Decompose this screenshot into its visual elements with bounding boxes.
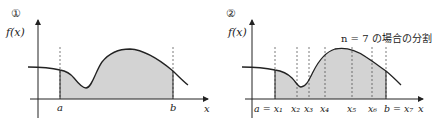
panel-2: ② f(x) n = 7 の場合の分割 a = x₁ x₂ x₃ x₄ x₅ x… [226, 7, 432, 118]
partition-caption: n = 7 の場合の分割 [341, 32, 432, 44]
point-label-x3: x₃ [304, 103, 313, 114]
diagram-canvas: ① f(x) a b x ② f(x) n = 7 の場合の分割 a = x₁ … [0, 0, 440, 127]
point-label-b: b [170, 102, 176, 113]
point-label-x5: x₅ [347, 103, 356, 114]
shaded-area [60, 49, 173, 99]
panel-marker: ① [11, 7, 21, 20]
panel-1: ① f(x) a b x [5, 7, 210, 118]
y-axis-label: f(x) [5, 26, 25, 39]
point-label-x4: x₄ [320, 103, 329, 114]
shaded-area [275, 48, 386, 99]
x-axis-label: x [418, 103, 424, 114]
point-label-a: a [57, 102, 63, 113]
y-axis-label: f(x) [227, 26, 247, 39]
point-label-x2: x₂ [291, 103, 300, 114]
point-label-x1: a = x₁ [254, 103, 283, 114]
x-axis-label: x [204, 103, 210, 114]
point-label-x7: b = x₇ [384, 103, 413, 114]
panel-marker: ② [226, 7, 236, 20]
point-label-x6: x₆ [368, 103, 377, 114]
